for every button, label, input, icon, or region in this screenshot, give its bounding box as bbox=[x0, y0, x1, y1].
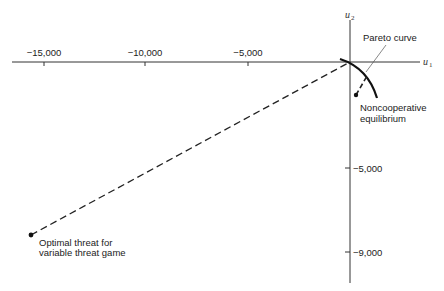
noncooperative-label-line2: equilibrium bbox=[360, 113, 406, 124]
x-tick-5000: −5,000 bbox=[233, 47, 262, 66]
x-tick-label: −10,000 bbox=[128, 47, 163, 58]
optimal-threat-label-line2: variable threat game bbox=[39, 247, 126, 258]
x-tick-15000: −15,000 bbox=[27, 47, 62, 66]
y-tick-9000: −9,000 bbox=[345, 247, 382, 258]
x-tick-label: −5,000 bbox=[233, 47, 262, 58]
svg-text:u: u bbox=[345, 9, 350, 20]
y-tick-5000: −5,000 bbox=[345, 163, 382, 174]
x-tick-10000: −10,000 bbox=[128, 47, 163, 66]
pareto-curve-label: Pareto curve bbox=[363, 32, 417, 43]
noncooperative-label-line1: Noncooperative bbox=[360, 102, 427, 113]
x-axis-label: u 1 bbox=[423, 56, 433, 69]
optimal-threat-point bbox=[29, 233, 34, 238]
y-tick-label: −9,000 bbox=[353, 247, 382, 258]
x-tick-label: −15,000 bbox=[27, 47, 62, 58]
svg-text:2: 2 bbox=[351, 14, 355, 22]
svg-text:1: 1 bbox=[429, 61, 433, 69]
noncooperative-equilibrium-point bbox=[354, 93, 358, 97]
pareto-leader-line bbox=[366, 45, 386, 72]
threat-dashed-line bbox=[31, 62, 350, 235]
pareto-diagram: −15,000 −10,000 −5,000 −5,000 −9,000 u 2… bbox=[0, 0, 444, 291]
y-tick-label: −5,000 bbox=[353, 163, 382, 174]
equilibrium-dashed-line bbox=[356, 76, 367, 95]
svg-text:u: u bbox=[423, 56, 428, 67]
